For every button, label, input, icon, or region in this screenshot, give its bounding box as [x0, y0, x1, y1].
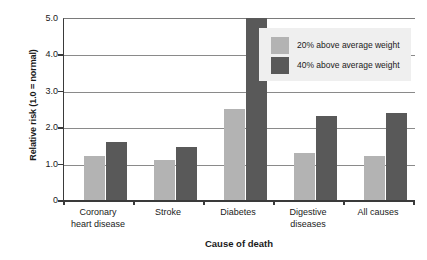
x-axis-title: Cause of death — [63, 238, 415, 249]
y-tick-label-1: 1.0 — [32, 159, 58, 169]
bar-diabetes-20pct[interactable] — [224, 109, 245, 200]
legend: 20% above average weight 40% above avera… — [259, 28, 411, 81]
x-category-label-line2: diseases — [265, 219, 351, 231]
y-tick-label-5: 5.0 — [32, 13, 58, 23]
x-category-label-line2: heart disease — [55, 219, 141, 231]
x-tick-mark-3 — [273, 200, 275, 205]
bar-all-causes-40pct[interactable] — [386, 113, 407, 200]
legend-swatch-20pct-icon — [271, 37, 289, 54]
x-category-label-all-causes: All causes — [335, 207, 421, 219]
y-tick-label-4: 4.0 — [32, 49, 58, 59]
y-tick-label-2: 2.0 — [32, 122, 58, 132]
bar-all-causes-20pct[interactable] — [364, 156, 385, 200]
x-axis-line — [63, 200, 415, 202]
bar-digestive-40pct[interactable] — [316, 116, 337, 200]
bar-group-coronary-heart-disease — [73, 18, 139, 200]
plot-area: 20% above average weight 40% above avera… — [63, 18, 415, 200]
legend-label-40pct: 40% above average weight — [297, 60, 400, 70]
bar-coronary-20pct[interactable] — [84, 156, 105, 200]
x-tick-mark-4 — [343, 200, 345, 205]
bar-coronary-40pct[interactable] — [106, 142, 127, 200]
y-tick-label-0: 0 — [32, 195, 58, 205]
legend-swatch-40pct-icon — [271, 57, 289, 74]
x-tick-mark-0 — [63, 200, 65, 205]
bar-digestive-20pct[interactable] — [294, 153, 315, 200]
bar-group-stroke — [143, 18, 209, 200]
bar-stroke-20pct[interactable] — [154, 160, 175, 200]
bar-stroke-40pct[interactable] — [176, 147, 197, 200]
y-tick-label-3: 3.0 — [32, 86, 58, 96]
x-category-label-line1: All causes — [335, 207, 421, 219]
x-tick-mark-2 — [203, 200, 205, 205]
x-tick-mark-1 — [133, 200, 135, 205]
legend-label-20pct: 20% above average weight — [297, 40, 400, 50]
bar-chart-figure: Relative risk (1.0 = normal) 5.0 4.0 3.0… — [0, 0, 427, 260]
x-tick-mark-5 — [413, 200, 415, 205]
y-axis-tick-labels: 5.0 4.0 3.0 2.0 1.0 0 — [28, 0, 58, 260]
